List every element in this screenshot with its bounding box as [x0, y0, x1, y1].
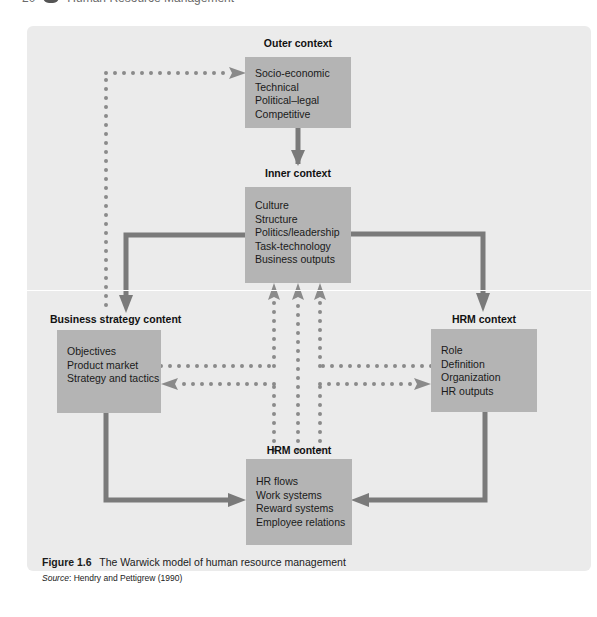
figure-caption-text: The Warwick model of human resource mana…	[99, 556, 345, 568]
dotted-arrow-hrm-content-to-hrm-context	[320, 378, 431, 450]
hrm-content-box: HR flows Work systems Reward systems Emp…	[246, 459, 352, 545]
inner-context-box: Culture Structure Politics/leadership Ta…	[245, 187, 351, 283]
arrow-inner-to-hrm-context	[351, 234, 490, 312]
figure-label: Figure 1.6	[42, 556, 92, 568]
dotted-arrow-hrm-context-to-inner	[314, 283, 431, 366]
arrow-hrm-context-to-hrm-content	[351, 412, 485, 507]
hrm-content-item: Work systems	[256, 489, 352, 503]
inner-context-item: Politics/leadership	[255, 226, 351, 240]
business-strategy-title: Business strategy content	[50, 313, 181, 325]
outer-context-box: Socio-economic Technical Political–legal…	[245, 57, 351, 128]
outer-context-title: Outer context	[245, 37, 351, 49]
dotted-arrow-hrm-content-to-inner	[292, 283, 304, 450]
inner-context-item: Culture	[255, 199, 351, 213]
business-strategy-item: Objectives	[67, 345, 161, 359]
inner-context-title: Inner context	[245, 167, 351, 179]
business-strategy-item: Strategy and tactics	[67, 372, 161, 386]
outer-context-item: Competitive	[255, 108, 351, 122]
hrm-context-title: HRM context	[431, 313, 537, 325]
hrm-content-title: HRM content	[246, 444, 352, 456]
figure-source: Source: Hendry and Pettigrew (1990)	[42, 573, 182, 583]
hrm-content-item: Reward systems	[256, 502, 352, 516]
scan-artifact-line	[0, 290, 597, 291]
hrm-context-box: Role Definition Organization HR outputs	[431, 329, 537, 412]
hrm-content-item: Employee relations	[256, 516, 352, 530]
hrm-context-item: HR outputs	[441, 385, 537, 399]
hrm-content-item: HR flows	[256, 475, 352, 489]
business-strategy-item: Product market	[67, 359, 161, 373]
inner-context-item: Task-technology	[255, 240, 351, 254]
dotted-arrow-hrm-content-to-business-strategy	[161, 378, 274, 450]
outer-context-item: Socio-economic	[255, 67, 351, 81]
hrm-context-item: Role	[441, 344, 537, 358]
inner-context-item: Business outputs	[255, 253, 351, 267]
hrm-context-item: Organization	[441, 371, 537, 385]
figure-caption: Figure 1.6 The Warwick model of human re…	[42, 556, 346, 568]
arrow-business-strategy-to-hrm-content	[106, 413, 246, 507]
outer-context-item: Political–legal	[255, 94, 351, 108]
hrm-context-item: Definition	[441, 358, 537, 372]
inner-context-item: Structure	[255, 213, 351, 227]
source-text: : Hendry and Pettigrew (1990)	[69, 573, 182, 583]
outer-context-item: Technical	[255, 81, 351, 95]
business-strategy-box: Objectives Product market Strategy and t…	[57, 330, 161, 413]
arrow-inner-to-business-strategy	[119, 235, 245, 313]
source-label: Source	[42, 573, 69, 583]
arrow-outer-to-inner	[291, 128, 305, 166]
